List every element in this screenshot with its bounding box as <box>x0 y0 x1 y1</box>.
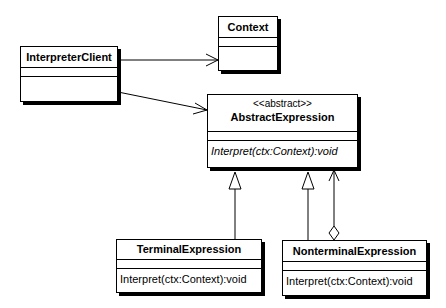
class-abstract-expression[interactable]: <<abstract>> AbstractExpression Interpre… <box>207 94 358 168</box>
class-name: NonterminalExpression <box>283 241 426 262</box>
class-header: <<abstract>> AbstractExpression <box>208 95 357 132</box>
class-name: TerminalExpression <box>117 240 261 260</box>
stereotype: <<abstract>> <box>208 95 357 109</box>
class-name: AbstractExpression <box>208 109 357 123</box>
attributes-compartment <box>117 260 261 269</box>
generalization-terminal <box>229 172 241 239</box>
class-nonterminal-expression[interactable]: NonterminalExpression Interpret(ctx:Cont… <box>282 240 427 296</box>
class-context[interactable]: Context <box>218 16 278 71</box>
class-terminal-expression[interactable]: TerminalExpression Interpret(ctx:Context… <box>116 239 262 293</box>
association-client-context <box>118 54 218 66</box>
aggregation-nonterminal-abstract <box>329 170 339 240</box>
generalization-nonterminal <box>302 172 314 240</box>
attributes-compartment <box>21 68 117 77</box>
method-interpret: Interpret(ctx:Context):void <box>117 269 261 285</box>
attributes-compartment <box>283 262 426 271</box>
attributes-compartment <box>208 132 357 141</box>
method-interpret: Interpret(ctx:Context):void <box>283 271 426 287</box>
class-name: InterpreterClient <box>21 47 117 68</box>
class-interpreter-client[interactable]: InterpreterClient <box>20 46 118 102</box>
association-client-abstract <box>118 92 207 114</box>
attributes-compartment <box>219 38 277 47</box>
method-interpret: Interpret(ctx:Context):void <box>208 141 357 157</box>
class-name: Context <box>219 17 277 38</box>
